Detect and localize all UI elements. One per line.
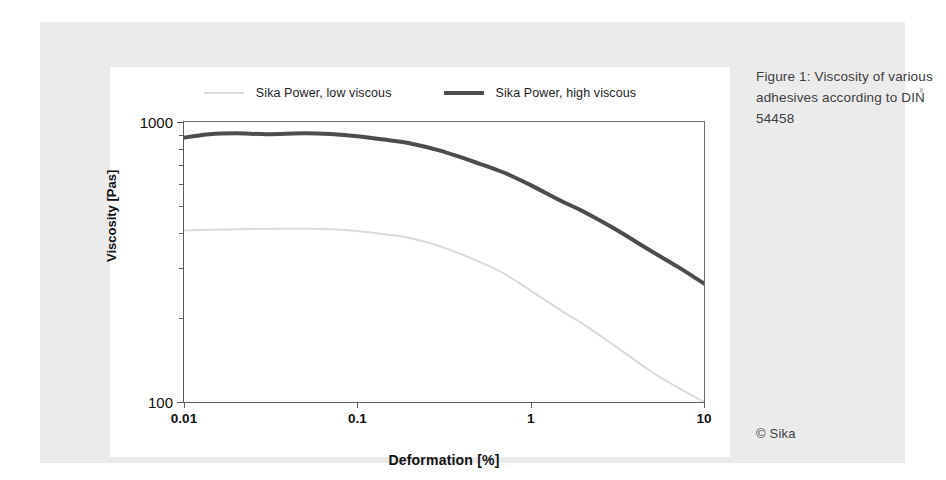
figure-caption: Figure 1: Viscosity of various adhesives… xyxy=(756,66,946,129)
y-tick-label-100: 100 xyxy=(148,394,173,411)
chart-legend: Sika Power, low viscous Sika Power, high… xyxy=(110,81,730,105)
x-tick-label-0.1: 0.1 xyxy=(348,411,367,426)
x-major-tick-10 xyxy=(704,402,705,408)
y-minor-tick-200 xyxy=(179,318,184,319)
x-axis-title: Deformation [%] xyxy=(183,452,705,468)
legend-line-icon-low-viscous xyxy=(204,92,244,94)
scan-artifact xyxy=(920,88,923,93)
x-tick-label-0.01: 0.01 xyxy=(171,411,197,426)
legend-label-high-viscous: Sika Power, high viscous xyxy=(496,86,637,100)
y-major-tick-1000 xyxy=(177,122,184,123)
y-tick-label-1000: 1000 xyxy=(140,114,173,131)
x-tick-label-1: 1 xyxy=(527,411,535,426)
y-major-tick-100 xyxy=(177,402,184,403)
y-minor-tick-400 xyxy=(179,233,184,234)
plot-curves xyxy=(184,122,704,402)
x-major-tick-1 xyxy=(531,402,532,408)
y-minor-tick-900 xyxy=(179,135,184,136)
series-curve-low-viscous xyxy=(184,229,704,402)
legend-item-high-viscous: Sika Power, high viscous xyxy=(444,86,637,100)
plot-area: 10010000.010.1110 xyxy=(183,121,705,403)
x-major-tick-0.1 xyxy=(357,402,358,408)
y-minor-tick-700 xyxy=(179,165,184,166)
page-root: Sika Power, low viscous Sika Power, high… xyxy=(0,0,946,480)
y-minor-tick-500 xyxy=(179,206,184,207)
figure-panel: Sika Power, low viscous Sika Power, high… xyxy=(40,22,905,463)
y-minor-tick-600 xyxy=(179,184,184,185)
x-tick-label-10: 10 xyxy=(696,411,711,426)
y-minor-tick-300 xyxy=(179,268,184,269)
legend-line-icon-high-viscous xyxy=(444,91,484,95)
legend-item-low-viscous: Sika Power, low viscous xyxy=(204,86,392,100)
legend-label-low-viscous: Sika Power, low viscous xyxy=(256,86,392,100)
x-major-tick-0.01 xyxy=(184,402,185,408)
chart-card: Sika Power, low viscous Sika Power, high… xyxy=(110,67,730,457)
y-axis-title: Viscosity [Pas] xyxy=(104,170,119,262)
series-curve-high-viscous xyxy=(184,133,704,283)
y-minor-tick-800 xyxy=(179,149,184,150)
copyright-credit: © Sika xyxy=(756,426,796,441)
